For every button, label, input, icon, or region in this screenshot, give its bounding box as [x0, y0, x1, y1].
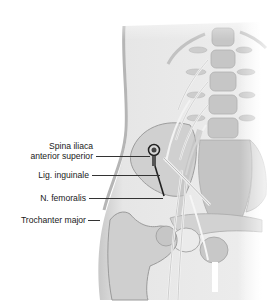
anatomy-illustration: Spina iliaca anterior superior Lig. ingu… [0, 0, 278, 307]
leader-line-troch [88, 220, 100, 221]
label-troch-text: Trochanter major [21, 215, 86, 225]
leader-line-spina [96, 156, 150, 157]
label-nfem-text: N. femoralis [40, 193, 86, 203]
label-lig-text: Lig. inguinale [38, 170, 89, 180]
label-lig-inguinale: Lig. inguinale [38, 170, 89, 180]
leader-line-lig [92, 175, 160, 176]
label-spina-iliaca: Spina iliaca anterior superior [30, 141, 93, 161]
label-trochanter-major: Trochanter major [21, 215, 86, 225]
label-spina-line1: Spina iliaca [30, 141, 93, 151]
label-n-femoralis: N. femoralis [40, 193, 86, 203]
leader-line-nfem [89, 198, 163, 199]
label-spina-line2: anterior superior [30, 151, 93, 161]
